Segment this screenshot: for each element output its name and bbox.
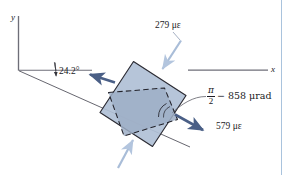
- label-normal-strain-top: 279 με: [155, 21, 181, 31]
- angle-marker-24-2: [54, 62, 56, 76]
- arrow-normal-strain-top: [163, 41, 182, 70]
- angle-label-24-2: 24.2°: [59, 67, 79, 77]
- shear-angle-remainder: − 858 μrad: [217, 91, 272, 101]
- coordinate-axes: [19, 16, 269, 71]
- strain-element-figure: y x 24.2° 279 με 579 με π 2 − 858 μrad: [0, 0, 287, 175]
- shear-angle-numerator: π: [207, 86, 215, 95]
- y-axis-label: y: [11, 13, 15, 22]
- label-leader-279: [173, 32, 180, 40]
- shear-angle-fraction: π 2: [207, 86, 215, 106]
- label-shear-angle: π 2 − 858 μrad: [207, 86, 272, 106]
- arrow-normal-strain-right: [175, 115, 203, 131]
- page-margin-rule: [281, 0, 282, 175]
- arrow-shear-left: [90, 75, 115, 83]
- shear-angle-denominator: 2: [208, 97, 215, 106]
- element-square-inscribed-dashed: [109, 88, 178, 136]
- x-axis-label: x: [271, 65, 275, 74]
- arrow-normal-strain-bottom: [118, 140, 133, 168]
- label-normal-strain-right: 579 με: [216, 122, 242, 132]
